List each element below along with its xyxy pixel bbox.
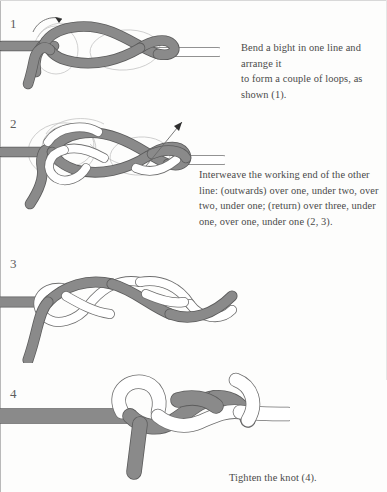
white-rope-top-bight-step-4 bbox=[119, 382, 160, 412]
page-border-top bbox=[0, 0, 387, 1]
gray-rope-figure-eight-step-1 bbox=[28, 27, 174, 84]
knot-figure-step-3: .g3 { fill:none; stroke:#8a8a8a; stroke-… bbox=[0, 248, 240, 363]
caption-step-1-line-2: to form a couple of loops, as shown (1). bbox=[241, 71, 383, 102]
knot-figure-step-1: .gr { fill:none; stroke:#8a8a8a; stroke-… bbox=[0, 10, 220, 100]
knot-figure-step-4: .g4 { fill:none; stroke:#8a8a8a; stroke-… bbox=[0, 372, 290, 482]
gray-rope-over-crossing-step-2 bbox=[152, 151, 186, 158]
caption-step-2-line-4: one, over one, under one (2, 3). bbox=[199, 214, 385, 230]
caption-step-2: Interweave the working end of the other … bbox=[199, 167, 385, 229]
caption-step-4-line-1: Tighten the knot (4). bbox=[229, 470, 379, 486]
caption-step-2-line-3: two, under one; (return) over three, und… bbox=[199, 198, 385, 214]
gray-rope-over-crossing-step-4 bbox=[178, 398, 216, 406]
caption-step-4: Tighten the knot (4). bbox=[229, 470, 379, 486]
knot-instruction-page: 1 .gr { fill:none; stroke:#8a8a8a; strok… bbox=[0, 0, 387, 492]
caption-step-2-line-2: line: (outwards) over one, under two, ov… bbox=[199, 183, 385, 199]
caption-step-1-line-1: Bend a bight in one line and arrange it bbox=[241, 40, 383, 71]
caption-step-2-line-1: Interweave the working end of the other bbox=[199, 167, 385, 183]
knot-figure-step-2: .g2 { fill:none; stroke:#8a8a8a; stroke-… bbox=[0, 104, 225, 214]
caption-step-1: Bend a bight in one line and arrange it … bbox=[241, 40, 383, 102]
